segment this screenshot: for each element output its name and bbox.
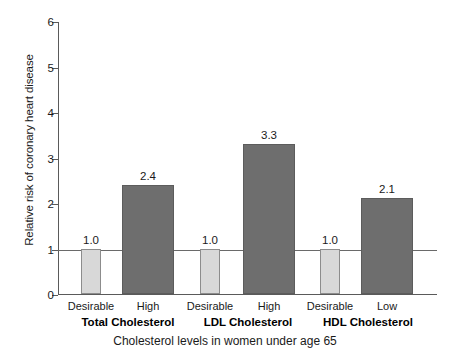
bar-value-label: 2.1 bbox=[341, 182, 433, 196]
y-tick-label: 6 bbox=[48, 14, 54, 30]
y-tick-label: 3 bbox=[48, 151, 54, 167]
chart-figure: Relative risk of coronary heart disease … bbox=[0, 0, 450, 351]
bar-desirable-1.0 bbox=[81, 249, 101, 295]
y-axis-title: Relative risk of coronary heart disease bbox=[20, 0, 38, 300]
y-tick-label: 4 bbox=[48, 105, 54, 121]
bar-high-3.3 bbox=[243, 144, 295, 294]
bar-high-2.4 bbox=[122, 185, 174, 294]
bar-value-label: 2.4 bbox=[102, 169, 194, 183]
y-tick-label: 1 bbox=[48, 242, 54, 258]
bar-value-label: 1.0 bbox=[300, 233, 360, 247]
chart-caption: Cholesterol levels in women under age 65 bbox=[0, 334, 450, 349]
y-tick-label: 2 bbox=[48, 196, 54, 212]
bar-value-label: 1.0 bbox=[61, 233, 121, 247]
x-group-label: HDL Cholesterol bbox=[293, 315, 443, 329]
x-category-label: Low bbox=[342, 299, 432, 313]
bar-value-label: 1.0 bbox=[180, 233, 240, 247]
y-axis-spine bbox=[58, 22, 59, 295]
y-tick-label: 5 bbox=[48, 60, 54, 76]
x-axis-baseline bbox=[58, 294, 437, 295]
bar-desirable-1.0 bbox=[200, 249, 220, 295]
bar-value-label: 3.3 bbox=[223, 128, 315, 142]
plot-area: 0123456 1.02.41.03.31.02.1 bbox=[58, 22, 437, 295]
bar-desirable-1.0 bbox=[320, 249, 340, 295]
bar-low-2.1 bbox=[361, 198, 413, 294]
